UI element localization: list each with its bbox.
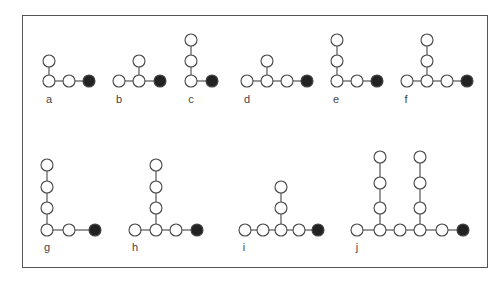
terminal-node [301,75,313,87]
open-node [113,75,125,87]
open-node [150,159,162,171]
panel-d: d [241,55,313,105]
panel-label: a [46,93,53,105]
open-node [351,224,363,236]
open-node [257,224,269,236]
open-node [185,55,197,67]
open-node [133,55,145,67]
panel-label: e [333,93,339,105]
open-node [421,75,433,87]
open-node [275,202,287,214]
panel-i: i [239,181,324,253]
open-node [275,181,287,193]
terminal-node [312,224,324,236]
open-node [414,177,426,189]
open-node [150,181,162,193]
open-node [331,55,343,67]
open-node [331,34,343,46]
panel-label: j [355,241,358,253]
open-node [374,202,386,214]
terminal-node [83,75,95,87]
open-node [331,75,343,87]
open-node [129,224,141,236]
tree-diagram-canvas: abcdefghij [0,0,504,282]
panel-label: c [188,93,194,105]
panel-j: j [351,151,469,253]
panel-c: c [185,34,218,105]
open-node [185,75,197,87]
panel-label: d [244,93,250,105]
open-node [281,75,293,87]
terminal-node [191,224,203,236]
open-node [414,202,426,214]
panel-a: a [43,55,95,105]
panel-label: b [116,93,122,105]
open-node [41,159,53,171]
panel-b: b [113,55,166,105]
panel-label: i [243,241,245,253]
panel-h: h [129,159,203,253]
open-node [150,202,162,214]
panel-label: g [44,241,50,253]
open-node [241,75,253,87]
terminal-node [89,224,101,236]
open-node [441,75,453,87]
open-node [185,34,197,46]
panel-g: g [41,159,101,253]
open-node [414,224,426,236]
open-node [43,75,55,87]
open-node [293,224,305,236]
open-node [421,55,433,67]
terminal-node [461,75,473,87]
panel-label: h [132,241,138,253]
open-node [414,151,426,163]
open-node [394,224,406,236]
open-node [41,224,53,236]
open-node [275,224,287,236]
open-node [150,224,162,236]
terminal-node [371,75,383,87]
open-node [63,75,75,87]
open-node [170,224,182,236]
open-node [239,224,251,236]
terminal-node [457,224,469,236]
panel-f: f [401,34,473,105]
panel-e: e [331,34,383,105]
open-node [63,224,75,236]
open-node [421,34,433,46]
panel-label: f [404,93,408,105]
open-node [41,202,53,214]
open-node [43,55,55,67]
open-node [401,75,413,87]
terminal-node [154,75,166,87]
open-node [261,55,273,67]
open-node [374,177,386,189]
terminal-node [206,75,218,87]
open-node [261,75,273,87]
open-node [351,75,363,87]
open-node [133,75,145,87]
open-node [374,151,386,163]
open-node [374,224,386,236]
open-node [41,181,53,193]
open-node [436,224,448,236]
